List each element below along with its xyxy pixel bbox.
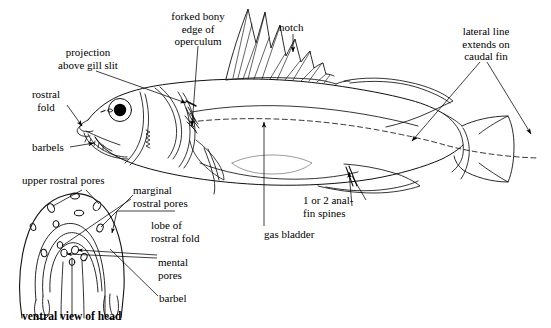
upper-body-contour (192, 106, 418, 126)
leader-mental-a (78, 250, 157, 255)
label-upper-rostral-pores: upper rostral pores (22, 174, 142, 187)
second-dorsal-fin-inner (350, 81, 450, 103)
lower-jaw-outline (84, 133, 128, 159)
caudal-peduncle (444, 114, 463, 172)
leader-lateral-line-a (412, 62, 480, 141)
leader-lateral-line-b (487, 62, 531, 134)
dorsal-notch (336, 81, 350, 84)
label-marginal-rostral-pores: marginal rostral pores (133, 184, 217, 209)
label-barbel: barbel (159, 292, 205, 305)
leader-barbel (110, 249, 158, 296)
leader-lines (53, 34, 531, 296)
label-anal-fin-spines: 1 or 2 anal- fin spines (303, 194, 377, 219)
label-lateral-line-extends-on-caudal-fin: lateral line extends on caudal fin (437, 25, 535, 63)
gill-slit (178, 92, 190, 167)
gas-bladder-outline (232, 155, 312, 174)
nostril-1 (101, 110, 105, 112)
leader-marginal-rostral-2 (62, 199, 131, 246)
mental-barbels (61, 258, 84, 318)
label-notch: notch (279, 21, 319, 34)
caudal-fin-lower-edge (479, 163, 508, 182)
label-mental-pores: mental pores (158, 256, 212, 281)
preopercle-serrations (146, 130, 150, 148)
rostral-fold-arc-3 (50, 243, 98, 292)
lateral-line-dashed (190, 119, 538, 158)
caudal-fin-base-curve (461, 128, 469, 179)
fish-anatomy-figure: forked bony edge of operculum notch late… (0, 0, 551, 328)
label-rostral-fold: rostral fold (22, 88, 70, 113)
label-ventral-view-of-head: ventral view of head (22, 310, 162, 323)
eye-pupil (114, 104, 126, 116)
label-gas-bladder: gas bladder (264, 228, 344, 241)
label-forked-bony-edge-of-operculum: forked bony edge of operculum (152, 10, 244, 48)
projection-above-gill-slit-mark (186, 101, 196, 106)
pectoral-fin (190, 140, 224, 180)
leader-upper-rostral-b (86, 190, 99, 204)
anal-fin-spines (346, 166, 357, 186)
dorsal-body-outline (88, 79, 444, 120)
second-dorsal-fin (344, 78, 453, 127)
label-lobe-of-rostral-fold: lobe of rostral fold (151, 219, 221, 244)
upper-rostral-pores (46, 193, 102, 216)
leader-forked-bony (192, 46, 198, 126)
leader-projection (96, 71, 186, 103)
anal-fin-inner (326, 181, 418, 191)
mouth-line (86, 131, 120, 145)
label-projection-above-gill-slit: projection above gill slit (36, 46, 140, 71)
label-barbels: barbels (32, 141, 80, 154)
